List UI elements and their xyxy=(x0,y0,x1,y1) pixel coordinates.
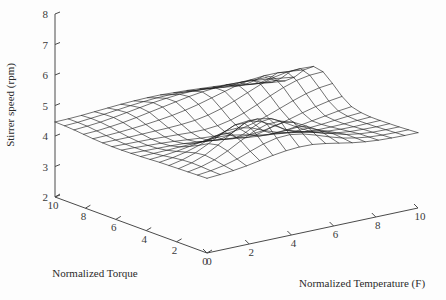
temperature-tick-label: 4 xyxy=(291,237,297,249)
torque-axis-title: Normalized Torque xyxy=(52,267,138,279)
z-tick-label: 4 xyxy=(43,130,49,142)
surface-mesh xyxy=(55,66,418,178)
temperature-tick-label: 2 xyxy=(248,246,254,258)
temperature-tick-label: 6 xyxy=(333,228,339,240)
torque-tick-label: 6 xyxy=(111,221,117,233)
z-tick-label: 3 xyxy=(43,161,49,173)
z-tick-label: 8 xyxy=(43,8,49,20)
torque-tick-label: 2 xyxy=(172,244,178,256)
torque-tick-label: 4 xyxy=(141,233,147,245)
axes-group xyxy=(55,12,418,253)
plot-canvas: 234567802468100246810Stirrer speed (rpm)… xyxy=(0,0,446,300)
z-tick-label: 5 xyxy=(43,100,49,112)
temperature-tick-label: 0 xyxy=(206,255,212,267)
z-tick-label: 6 xyxy=(43,69,49,81)
temperature-axis-title: Normalized Temperature (F) xyxy=(299,277,425,290)
temperature-tick-label: 10 xyxy=(415,210,427,222)
temperature-tick-label: 8 xyxy=(375,219,381,231)
torque-tick-label: 10 xyxy=(48,199,60,211)
z-tick-label: 7 xyxy=(43,39,49,51)
surface-plot-figure: 234567802468100246810Stirrer speed (rpm)… xyxy=(0,0,446,300)
axis-labels-group: 234567802468100246810Stirrer speed (rpm)… xyxy=(4,8,426,290)
torque-tick-label: 8 xyxy=(81,210,87,222)
z-axis-title: Stirrer speed (rpm) xyxy=(4,63,17,147)
